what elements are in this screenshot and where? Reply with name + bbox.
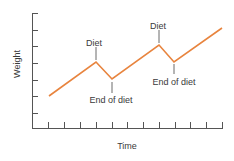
x-axis-label: Time [117,141,137,151]
y-axis-label: Weight [12,50,22,78]
annotation-diet-1: Diet [86,38,103,48]
annotation-diet-2: Diet [150,21,167,31]
weight-line [49,28,222,96]
x-ticks [49,122,223,128]
weight-chart: Diet End of diet Diet End of diet Time W… [0,0,234,161]
axes [32,13,223,129]
annotation-end-of-diet-1: End of diet [89,95,133,105]
annotation-end-of-diet-2: End of diet [152,77,196,87]
